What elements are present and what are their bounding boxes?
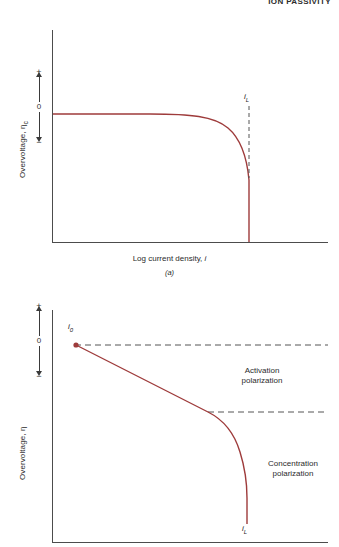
running-head: ION PASSIVITY bbox=[268, 0, 331, 6]
activation-label-line1: Activation bbox=[216, 366, 308, 376]
figure-a-il-subscript: L bbox=[246, 97, 249, 103]
figure-page: ION PASSIVITY + 0 − Overvoltage, ηc bbox=[0, 0, 339, 547]
activation-label-line2: polarization bbox=[216, 376, 308, 386]
figure-a-curve bbox=[53, 114, 249, 242]
figure-b-activation-polarization-label: Activation polarization bbox=[216, 366, 308, 386]
figure-b-exchange-current-label: i0 bbox=[68, 322, 73, 333]
figure-a-caption: (a) bbox=[0, 268, 339, 277]
concentration-label-line1: Concentration bbox=[247, 459, 339, 469]
figure-b-limiting-current-label: iL bbox=[242, 524, 247, 535]
figure-b-i0-subscript: 0 bbox=[70, 327, 73, 333]
figure-a-plot bbox=[0, 18, 339, 280]
concentration-label-line2: polarization bbox=[247, 469, 339, 479]
figure-b-il-subscript: L bbox=[244, 529, 247, 535]
figure-a-x-axis-title-symbol: i bbox=[205, 254, 207, 263]
figure-a-x-axis-title-text: Log current density, bbox=[133, 254, 205, 263]
figure-b: + 0 − Overvoltage, η i0 iL bbox=[0, 292, 339, 547]
figure-b-plot bbox=[0, 292, 339, 547]
figure-a-x-axis-title: Log current density, i bbox=[0, 254, 339, 263]
figure-a-limiting-current-label: iL bbox=[244, 92, 249, 103]
figure-a: + 0 − Overvoltage, ηc iL Log current den… bbox=[0, 18, 339, 280]
figure-b-exchange-current-marker bbox=[73, 342, 78, 347]
figure-b-concentration-polarization-label: Concentration polarization bbox=[247, 459, 339, 479]
